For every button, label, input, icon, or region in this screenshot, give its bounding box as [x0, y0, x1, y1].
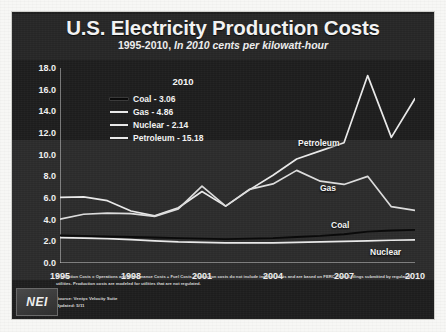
nei-logo: NEI [16, 288, 58, 316]
updated-line: Updated: 5/11 [56, 302, 306, 309]
legend-swatch [110, 124, 128, 126]
y-axis-tick-label: 16.0 [26, 85, 56, 95]
y-axis-tick-label: 2.0 [26, 236, 56, 246]
series-label-petroleum: Petroleum [298, 138, 340, 148]
legend-item: Coal - 3.06 [110, 92, 242, 105]
legend-item-label: Gas - 4.86 [133, 107, 173, 117]
legend-swatch [110, 111, 128, 113]
series-line-gas [60, 170, 415, 219]
y-axis: 0.02.04.06.08.010.012.014.016.018.0 [22, 68, 56, 263]
legend-rows: Coal - 3.06Gas - 4.86Nuclear - 2.14Petro… [110, 92, 242, 144]
chart-legend: 2010 Coal - 3.06Gas - 4.86Nuclear - 2.14… [110, 76, 242, 144]
legend-item-label: Nuclear - 2.14 [133, 120, 188, 130]
page-title: U.S. Electricity Production Costs [12, 16, 434, 40]
y-axis-tick-label: 0.0 [26, 258, 56, 268]
legend-swatch [110, 98, 128, 100]
legend-item-label: Petroleum - 15.18 [133, 133, 203, 143]
legend-item: Gas - 4.86 [110, 105, 242, 118]
nei-logo-text: NEI [26, 295, 48, 309]
presentation-slide: U.S. Electricity Production Costs 1995-2… [12, 12, 434, 319]
legend-item: Petroleum - 15.18 [110, 131, 242, 144]
series-label-coal: Coal [331, 220, 349, 230]
legend-item: Nuclear - 2.14 [110, 118, 242, 131]
subtitle-range: 1995-2010, [118, 39, 174, 51]
source-line: Source: Ventyx Velocity Suite [56, 295, 306, 302]
page-subtitle: 1995-2010, In 2010 cents per kilowatt-ho… [12, 39, 434, 51]
subtitle-units: In 2010 cents per kilowatt-hour [174, 39, 328, 51]
series-label-gas: Gas [320, 183, 336, 193]
legend-swatch [110, 137, 128, 139]
y-axis-tick-label: 4.0 [26, 215, 56, 225]
footnote-text: Production Costs = Operations and Mainte… [56, 274, 416, 287]
y-axis-tick-label: 6.0 [26, 193, 56, 203]
y-axis-tick-label: 10.0 [26, 150, 56, 160]
y-axis-tick-label: 18.0 [26, 63, 56, 73]
source-text: Source: Ventyx Velocity Suite Updated: 5… [56, 295, 306, 309]
y-axis-tick-label: 14.0 [26, 106, 56, 116]
legend-item-label: Coal - 3.06 [133, 94, 176, 104]
page-background: U.S. Electricity Production Costs 1995-2… [0, 0, 446, 332]
legend-header: 2010 [124, 76, 242, 87]
series-label-nuclear: Nuclear [370, 247, 401, 257]
series-line-coal [60, 230, 415, 239]
y-axis-tick-label: 12.0 [26, 128, 56, 138]
y-axis-tick-label: 8.0 [26, 171, 56, 181]
